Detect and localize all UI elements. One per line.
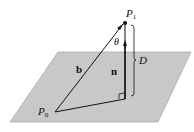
vector-b-arrowhead [117,24,123,30]
distance-point-plane-diagram: P1 P0 θ b n D [0,0,194,132]
point-p1 [123,21,127,25]
vector-n-arrowhead [123,40,127,46]
label-theta: θ [114,36,119,47]
label-b: b [76,63,82,75]
label-n: n [111,65,117,77]
label-p1: P1 [125,7,137,21]
label-d: D [138,54,147,66]
